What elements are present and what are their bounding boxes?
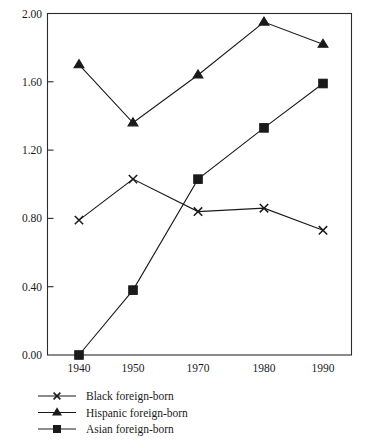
x-tick-label: 1970 [187, 362, 210, 374]
square-marker [319, 79, 327, 87]
y-tick-label: 1.60 [22, 76, 42, 88]
chart-background [0, 0, 365, 441]
square-marker [129, 286, 137, 294]
square-marker [260, 124, 268, 132]
square-marker [54, 426, 61, 433]
legend-label: Asian foreign-born [86, 423, 174, 436]
square-marker [75, 351, 83, 359]
x-tick-label: 1990 [312, 362, 335, 374]
x-tick-label: 1940 [68, 362, 91, 374]
x-tick-label: 1950 [122, 362, 145, 374]
y-tick-label: 0.40 [22, 281, 42, 293]
x-tick-label: 1980 [253, 362, 276, 374]
legend-label: Hispanic foreign-born [86, 407, 188, 420]
y-tick-label: 0.00 [22, 349, 42, 361]
legend-label: Black foreign-born [86, 390, 174, 403]
square-marker [194, 175, 202, 183]
line-chart-figure: 0.000.400.801.201.602.00 194019501970198… [0, 0, 365, 441]
y-tick-label: 1.20 [22, 144, 42, 156]
y-tick-label: 0.80 [22, 212, 42, 224]
y-tick-label: 2.00 [22, 8, 42, 20]
